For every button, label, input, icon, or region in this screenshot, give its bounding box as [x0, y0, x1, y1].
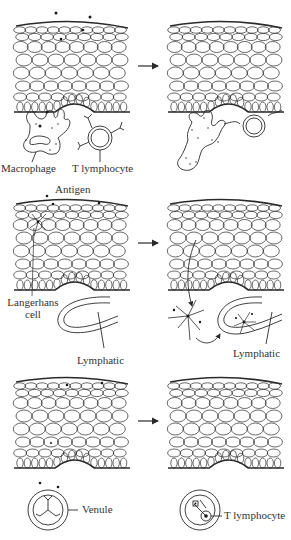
lymphatic-label-right: Lymphatic: [233, 348, 280, 359]
skin-epidermis-block: [13, 21, 130, 112]
diagram-canvas: [0, 0, 291, 540]
lymphatic-vessel: [218, 297, 282, 344]
lymphatic-label-left: Lymphatic: [77, 355, 124, 366]
langerhans-cell-label: Langerhans cell: [6, 297, 60, 320]
venule: [28, 490, 78, 530]
macrophage-label: Macrophage: [1, 163, 56, 174]
macrophage-activated: [178, 110, 282, 170]
macrophage-cell: [24, 109, 70, 162]
t-lymphocyte-label: T lymphocyte: [72, 163, 133, 174]
t-lymphocyte-venule-label: T lymphocyte: [224, 510, 285, 521]
skin-epidermis-block: [13, 377, 130, 468]
lymphatic-vessel: [58, 297, 118, 348]
skin-epidermis-block: [13, 199, 130, 290]
antigen-dots: [55, 12, 92, 41]
skin-epidermis-block: [167, 21, 284, 112]
migrating-langerhans-cell: [168, 300, 204, 340]
t-lymphocyte-cell: [78, 114, 124, 162]
t-lymphocyte-activated: [243, 115, 265, 137]
antigen-label: Antigen: [55, 184, 90, 195]
venule-label: Venule: [82, 504, 113, 515]
venule-with-t-lymphocyte: [180, 490, 222, 530]
langerhans-label-line2: cell: [6, 309, 60, 320]
langerhans-label-line1: Langerhans: [6, 297, 60, 308]
skin-epidermis-block: [167, 199, 284, 290]
skin-epidermis-block: [167, 377, 284, 468]
